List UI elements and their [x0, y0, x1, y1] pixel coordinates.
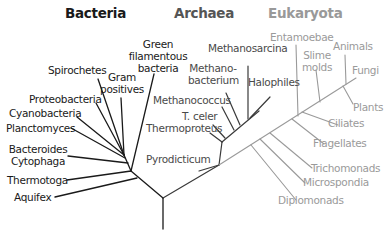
- label-line: Methano-: [188, 62, 238, 74]
- label-line: Cytophaga: [8, 155, 68, 167]
- label-line: Green: [128, 38, 188, 50]
- label-planctomyces: Planctomyces: [6, 122, 75, 134]
- label-trichomonads: Trichomonads: [311, 162, 380, 174]
- label-halophiles: Halophiles: [248, 76, 300, 88]
- label-methanococcus: Methanococcus: [153, 94, 231, 106]
- label-entamoebae: Entamoebae: [270, 31, 334, 43]
- label-line: bacterium: [188, 74, 238, 86]
- domain-header-archaea: Archaea: [174, 5, 234, 21]
- label-aquifex: Aquifex: [14, 191, 51, 203]
- label-ciliates: Ciliates: [328, 117, 364, 129]
- label-pyrodicticum: Pyrodicticum: [146, 153, 211, 165]
- label-thermotoga: Thermotoga: [7, 174, 68, 186]
- label-bacteroides-cytophaga: Bacteroides Cytophaga: [8, 143, 68, 167]
- label-diplomonads: Diplomonads: [278, 194, 344, 206]
- label-line: positives: [100, 83, 144, 95]
- label-t-celer: T. celer: [182, 110, 217, 122]
- label-spirochetes: Spirochetes: [48, 64, 106, 76]
- domain-header-eukaryota: Eukaryota: [268, 5, 343, 21]
- label-cyanobacteria: Cyanobacteria: [9, 107, 81, 119]
- label-flagellates: Flagellates: [313, 137, 367, 149]
- label-fungi: Fungi: [352, 64, 379, 76]
- label-line: Bacteroides: [8, 143, 68, 155]
- label-green-filamentous-bacteria: Green filamentous bacteria: [128, 38, 188, 74]
- label-gram-positives: Gram positives: [100, 71, 144, 95]
- label-methanosarcina: Methanosarcina: [208, 42, 287, 54]
- label-plants: Plants: [353, 101, 383, 113]
- label-thermoproteus: Thermoproteus: [146, 122, 222, 134]
- label-microspondia: Microspondia: [303, 176, 369, 188]
- domain-header-bacteria: Bacteria: [65, 5, 126, 21]
- label-line: filamentous: [128, 50, 188, 62]
- label-line: Gram: [100, 71, 144, 83]
- label-animals: Animals: [333, 40, 373, 52]
- label-slime-molds: Slime molds: [300, 49, 334, 73]
- label-methanobacterium: Methano- bacterium: [188, 62, 238, 86]
- label-line: molds: [300, 61, 334, 73]
- label-line: Slime: [300, 49, 334, 61]
- label-proteobacteria: Proteobacteria: [29, 93, 102, 105]
